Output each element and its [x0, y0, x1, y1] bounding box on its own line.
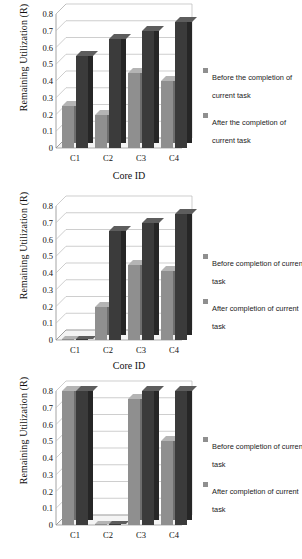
- figure-three-bar-charts: Remaining Utilization (R) 0.8 0.7 0.6 0.…: [0, 0, 302, 559]
- bar-c2-after: [109, 39, 121, 148]
- legend-item-before: Before completion of current task: [203, 435, 302, 471]
- bar-c2-after: [109, 231, 121, 340]
- legend-label: Before completion of current task: [212, 259, 302, 286]
- y-tick: 0.1: [42, 319, 53, 327]
- x-tick: C2: [93, 153, 123, 163]
- y-axis-title: Remaining Utilization (R): [18, 0, 29, 128]
- y-tick: 0: [49, 521, 53, 529]
- bars-2: [56, 206, 192, 340]
- y-tick: 0.8: [42, 10, 53, 18]
- bar-c1-after: [76, 56, 88, 148]
- legend-label: After the completion of current task: [212, 118, 286, 145]
- legend-3: Before completion of current task After …: [203, 435, 302, 525]
- bar-c4-after: [175, 214, 187, 340]
- bar-c4-before: [161, 441, 173, 525]
- y-tick: 0: [49, 336, 53, 344]
- x-axis-title: Core ID: [56, 170, 202, 181]
- x-tick: C3: [126, 345, 156, 355]
- chart-panel-3: Remaining Utilization (R) 0.8 0.7 0.6 0.…: [0, 375, 302, 559]
- y-tick: 0.3: [42, 94, 53, 102]
- bars-3: [56, 391, 192, 525]
- y-tick: 0.6: [42, 421, 53, 429]
- x-tick: C4: [159, 530, 189, 540]
- bar-c1-after: [76, 391, 88, 525]
- y-tick: 0: [49, 144, 53, 152]
- y-tick: 0.5: [42, 252, 53, 260]
- y-tick: 0.7: [42, 404, 53, 412]
- bar-c4-after: [175, 391, 187, 525]
- chart-panel-2: Remaining Utilization (R) 0.8 0.7 0.6 0.…: [0, 190, 302, 375]
- legend-item-after: After completion of current task: [203, 480, 302, 516]
- legend-swatch-icon: [203, 113, 208, 118]
- legend-swatch-icon: [203, 68, 208, 73]
- y-tick: 0.6: [42, 44, 53, 52]
- bar-c3-after: [142, 223, 154, 340]
- bars-1: [56, 14, 192, 148]
- legend-swatch-icon: [203, 482, 208, 487]
- bar-c1-before: [62, 391, 74, 525]
- plot-area-1: 0.8 0.7 0.6 0.5 0.4 0.3 0.2 0.1 0: [56, 14, 192, 148]
- legend-item-after: After the completion of current task: [203, 111, 302, 147]
- bar-c1-after: [76, 339, 88, 341]
- y-tick: 0.2: [42, 303, 53, 311]
- legend-swatch-icon: [203, 254, 208, 259]
- y-tick: 0.5: [42, 437, 53, 445]
- x-tick: C3: [126, 153, 156, 163]
- y-tick: 0.1: [42, 127, 53, 135]
- legend-label: After completion of current task: [212, 487, 299, 514]
- x-tick-labels-3: C1 C2 C3 C4: [56, 530, 192, 544]
- x-tick: C2: [93, 530, 123, 540]
- y-tick: 0.8: [42, 387, 53, 395]
- bar-c3-after: [142, 31, 154, 148]
- bar-c1-before: [62, 339, 74, 341]
- legend-swatch-icon: [203, 299, 208, 304]
- bar-c3-after: [142, 391, 154, 525]
- bar-c2-before: [95, 307, 107, 341]
- legend-label: Before completion of current task: [212, 442, 302, 469]
- x-tick: C4: [159, 153, 189, 163]
- plot-area-2: 0.8 0.7 0.6 0.5 0.4 0.3 0.2 0.1 0: [56, 206, 192, 340]
- bar-c4-before: [161, 271, 173, 340]
- legend-swatch-icon: [203, 437, 208, 442]
- legend-item-before: Before the completion of current task: [203, 66, 302, 102]
- bar-c3-before: [128, 399, 140, 526]
- x-tick: C4: [159, 345, 189, 355]
- y-tick: 0.7: [42, 219, 53, 227]
- bar-c4-before: [161, 81, 173, 148]
- y-tick: 0.7: [42, 27, 53, 35]
- y-tick: 0.6: [42, 236, 53, 244]
- x-tick: C3: [126, 530, 156, 540]
- y-tick: 0.4: [42, 269, 53, 277]
- y-tick: 0.3: [42, 286, 53, 294]
- legend-item-before: Before completion of current task: [203, 252, 302, 288]
- y-tick: 0.4: [42, 454, 53, 462]
- x-tick: C2: [93, 345, 123, 355]
- x-tick: C1: [60, 530, 90, 540]
- bar-c4-after: [175, 22, 187, 148]
- y-tick: 0.4: [42, 77, 53, 85]
- y-tick: 0.2: [42, 111, 53, 119]
- legend-2: Before completion of current task After …: [203, 252, 302, 342]
- legend-item-after: After completion of current task: [203, 297, 302, 333]
- x-tick: C1: [60, 153, 90, 163]
- y-tick: 0.1: [42, 504, 53, 512]
- y-tick: 0.8: [42, 202, 53, 210]
- plot-area-3: 0.8 0.7 0.6 0.5 0.4 0.3 0.2 0.1 0: [56, 391, 192, 525]
- bar-c3-before: [128, 73, 140, 148]
- bar-c3-before: [128, 265, 140, 340]
- y-axis-title: Remaining Utilization (R): [18, 176, 29, 316]
- y-tick: 0.5: [42, 60, 53, 68]
- y-tick: 0.3: [42, 471, 53, 479]
- chart-panel-1: Remaining Utilization (R) 0.8 0.7 0.6 0.…: [0, 0, 302, 190]
- x-tick-labels-1: C1 C2 C3 C4: [56, 153, 192, 167]
- legend-label: Before the completion of current task: [212, 73, 292, 100]
- bar-c1-before: [62, 106, 74, 148]
- y-axis-title: Remaining Utilization (R): [18, 361, 29, 501]
- legend-1: Before the completion of current task Af…: [203, 66, 302, 156]
- x-axis-title: Core ID: [56, 360, 202, 371]
- legend-label: After completion of current task: [212, 304, 299, 331]
- bar-c2-after: [109, 524, 121, 526]
- x-tick-labels-2: C1 C2 C3 C4: [56, 345, 192, 359]
- bar-c2-before: [95, 115, 107, 149]
- x-tick: C1: [60, 345, 90, 355]
